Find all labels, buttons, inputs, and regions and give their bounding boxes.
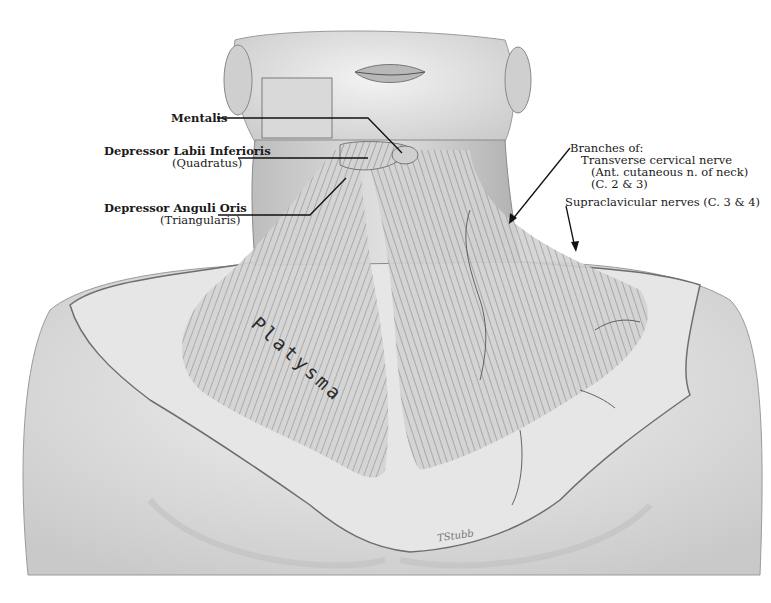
- label-mentalis: Mentalis: [171, 112, 227, 125]
- label-supraclavicular: Supraclavicular nerves (C. 3 & 4): [565, 196, 760, 209]
- mentalis-muscle: [392, 146, 418, 164]
- label-c2-c3: (C. 2 & 3): [591, 178, 648, 191]
- label-depressor-labii-line2: (Quadratus): [172, 157, 242, 170]
- leader-transverse-cervical: [512, 148, 570, 220]
- arrow-supraclavicular: [571, 241, 579, 252]
- platysma-illustration: [0, 0, 771, 603]
- anatomy-figure: Mentalis Depressor Labii Inferioris (Qua…: [0, 0, 771, 603]
- label-depressor-anguli-line2: (Triangularis): [160, 214, 240, 227]
